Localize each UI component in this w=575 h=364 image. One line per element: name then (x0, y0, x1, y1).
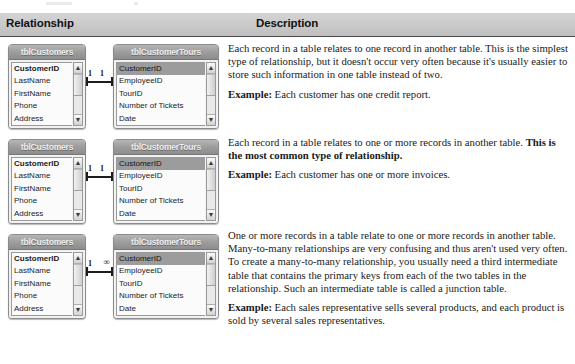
field-row[interactable]: LastName (12, 75, 72, 87)
field-row[interactable]: Phone (12, 195, 72, 207)
scroll-down-arrow-icon[interactable]: ▼ (207, 209, 215, 220)
table-titlebar: tblCustomerTours (114, 45, 218, 60)
field-row[interactable]: Address (12, 113, 72, 125)
table-body: CustomerID EmployeeID TourID Number of T… (114, 60, 218, 128)
description-one-to-many: Each record in a table relates to one or… (228, 136, 570, 182)
scroll-up-arrow-icon[interactable]: ▲ (207, 253, 215, 264)
cardinality-left: 1 (88, 259, 92, 268)
cardinality-left: 1 (88, 69, 92, 78)
scroll-down-arrow-icon[interactable]: ▼ (207, 114, 215, 125)
cardinality-left: 1 (88, 164, 92, 173)
column-header-relationship: Relationship (6, 17, 74, 29)
scroll-up-arrow-icon[interactable]: ▲ (74, 253, 82, 264)
scroll-down-arrow-icon[interactable]: ▼ (207, 304, 215, 315)
table-window-tblcustomertours[interactable]: tblCustomerTours CustomerID EmployeeID T… (113, 139, 219, 224)
cardinality-right-infinity: ∞ (104, 258, 110, 267)
field-row-selected[interactable]: CustomerID (117, 63, 205, 75)
example-label: Example: (228, 168, 272, 180)
scroll-up-arrow-icon[interactable]: ▲ (207, 63, 215, 74)
field-list[interactable]: CustomerID EmployeeID TourID Number of T… (116, 252, 205, 316)
field-row[interactable]: FirstName (12, 278, 72, 290)
table-titlebar: tblCustomers (9, 235, 85, 250)
scrollbar-thumb[interactable] (207, 264, 215, 286)
table-window-tblcustomers[interactable]: tblCustomers CustomerID LastName FirstNa… (8, 44, 86, 129)
field-row[interactable]: Phone (12, 290, 72, 302)
field-row[interactable]: LastName (12, 265, 72, 277)
table-titlebar: tblCustomerTours (114, 140, 218, 155)
connector-line (86, 271, 113, 273)
cardinality-right: 1 (100, 69, 104, 78)
field-list[interactable]: CustomerID LastName FirstName Phone Addr… (11, 62, 72, 126)
description-paragraph: One or more records in a table relate to… (228, 229, 570, 295)
scroll-down-arrow-icon[interactable]: ▼ (74, 114, 82, 125)
field-row[interactable]: CustomerID (12, 63, 72, 75)
column-header-description: Description (256, 17, 318, 29)
table-titlebar: tblCustomers (9, 140, 85, 155)
field-row[interactable]: FirstName (12, 183, 72, 195)
scrollbar-thumb[interactable] (74, 264, 82, 286)
scrollbar-thumb[interactable] (74, 169, 82, 191)
scrollbar-thumb[interactable] (207, 169, 215, 191)
scroll-up-arrow-icon[interactable]: ▲ (74, 158, 82, 169)
field-row[interactable]: EmployeeID (117, 170, 205, 182)
field-row[interactable]: EmployeeID (117, 265, 205, 277)
vertical-scrollbar[interactable]: ▲ ▼ (73, 62, 83, 126)
relationship-connector[interactable]: 1 ∞ (86, 260, 113, 276)
scroll-down-arrow-icon[interactable]: ▼ (74, 304, 82, 315)
field-list[interactable]: CustomerID LastName FirstName Phone Addr… (11, 252, 72, 316)
scroll-up-arrow-icon[interactable]: ▲ (74, 63, 82, 74)
field-row[interactable]: Date (117, 113, 205, 125)
example-text: Each customer has one credit report. (272, 88, 431, 100)
field-row[interactable]: Phone (12, 100, 72, 112)
field-row[interactable]: Date (117, 303, 205, 315)
table-body: CustomerID EmployeeID TourID Number of T… (114, 155, 218, 223)
example-text: Each customer has one or more invoices. (272, 168, 450, 180)
relationship-diagram-one-to-many: tblCustomers CustomerID LastName FirstNa… (8, 139, 220, 225)
field-row[interactable]: Number of Tickets (117, 100, 205, 112)
scan-smudge (46, 2, 72, 5)
field-row[interactable]: FirstName (12, 88, 72, 100)
table-window-tblcustomers[interactable]: tblCustomers CustomerID LastName FirstNa… (8, 234, 86, 319)
table-window-tblcustomers[interactable]: tblCustomers CustomerID LastName FirstNa… (8, 139, 86, 224)
description-paragraph-plain: Each record in a table relates to one or… (228, 136, 526, 148)
field-row[interactable]: Number of Tickets (117, 195, 205, 207)
scrollbar-thumb[interactable] (207, 74, 215, 96)
field-list[interactable]: CustomerID EmployeeID TourID Number of T… (116, 157, 205, 221)
scan-smudge (134, 2, 138, 5)
field-row[interactable]: TourID (117, 183, 205, 195)
scroll-up-arrow-icon[interactable]: ▲ (207, 158, 215, 169)
field-row[interactable]: LastName (12, 170, 72, 182)
description-many-to-many: One or more records in a table relate to… (228, 229, 570, 327)
vertical-scrollbar[interactable]: ▲ ▼ (73, 252, 83, 316)
example-label: Example: (228, 88, 272, 100)
field-row[interactable]: EmployeeID (117, 75, 205, 87)
field-list[interactable]: CustomerID LastName FirstName Phone Addr… (11, 157, 72, 221)
field-row[interactable]: Date (117, 208, 205, 220)
relationship-connector[interactable]: 1 1 (86, 165, 113, 181)
table-window-tblcustomertours[interactable]: tblCustomerTours CustomerID EmployeeID T… (113, 234, 219, 319)
table-body: CustomerID EmployeeID TourID Number of T… (114, 250, 218, 318)
relationship-diagram-many-to-many: tblCustomers CustomerID LastName FirstNa… (8, 234, 220, 320)
relationship-connector[interactable]: 1 1 (86, 70, 113, 86)
field-row[interactable]: CustomerID (12, 158, 72, 170)
example-label: Example: (228, 301, 272, 313)
vertical-scrollbar[interactable]: ▲ ▼ (206, 252, 216, 316)
field-row-selected[interactable]: CustomerID (117, 253, 205, 265)
vertical-scrollbar[interactable]: ▲ ▼ (206, 62, 216, 126)
field-row[interactable]: Address (12, 208, 72, 220)
table-window-tblcustomertours[interactable]: tblCustomerTours CustomerID EmployeeID T… (113, 44, 219, 129)
vertical-scrollbar[interactable]: ▲ ▼ (206, 157, 216, 221)
field-list[interactable]: CustomerID EmployeeID TourID Number of T… (116, 62, 205, 126)
vertical-scrollbar[interactable]: ▲ ▼ (73, 157, 83, 221)
scroll-down-arrow-icon[interactable]: ▼ (74, 209, 82, 220)
field-row[interactable]: Number of Tickets (117, 290, 205, 302)
field-row[interactable]: TourID (117, 88, 205, 100)
field-row-selected[interactable]: CustomerID (117, 158, 205, 170)
field-row[interactable]: TourID (117, 278, 205, 290)
scrollbar-thumb[interactable] (74, 74, 82, 96)
description-paragraph: Each record in a table relates to one re… (228, 42, 570, 82)
scan-artifact (0, 0, 575, 12)
field-row[interactable]: CustomerID (12, 253, 72, 265)
field-row[interactable]: Address (12, 303, 72, 315)
description-one-to-one: Each record in a table relates to one re… (228, 42, 570, 101)
